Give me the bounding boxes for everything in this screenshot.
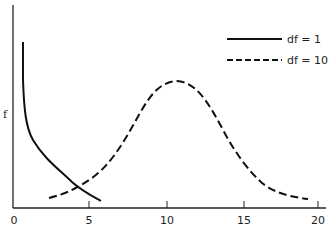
chi-square-chart: 0 5 10 15 20 f df = 1 df = 10 (0, 0, 328, 228)
legend-label-df1: df = 1 (287, 33, 321, 46)
x-tick-label-0: 0 (11, 214, 18, 227)
series-df10-curve (49, 81, 308, 199)
y-axis-label: f (3, 108, 8, 121)
x-tick-label-10: 10 (160, 214, 174, 227)
legend: df = 1 df = 10 (227, 33, 328, 67)
series-df1-curve (23, 42, 101, 201)
x-tick-label-5: 5 (86, 214, 93, 227)
x-tick-label-15: 15 (237, 214, 251, 227)
legend-label-df10: df = 10 (287, 54, 328, 67)
x-ticks (89, 201, 318, 208)
x-tick-label-20: 20 (311, 214, 325, 227)
